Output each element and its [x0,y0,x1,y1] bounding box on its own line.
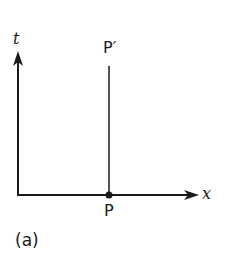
x-axis-label: x [202,186,211,202]
point-p-dot [106,192,113,199]
point-p-prime-label: P′ [103,40,116,56]
t-axis-label: t [13,31,19,47]
point-p-label: P [104,203,114,219]
figure-caption: (a) [15,232,39,249]
